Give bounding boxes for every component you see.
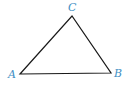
vertex-label-a: A [7,68,16,81]
vertex-label-c: C [68,1,77,14]
triangle-diagram: C A B [0,0,128,88]
vertex-label-b: B [113,67,122,80]
triangle-abc [20,16,111,74]
